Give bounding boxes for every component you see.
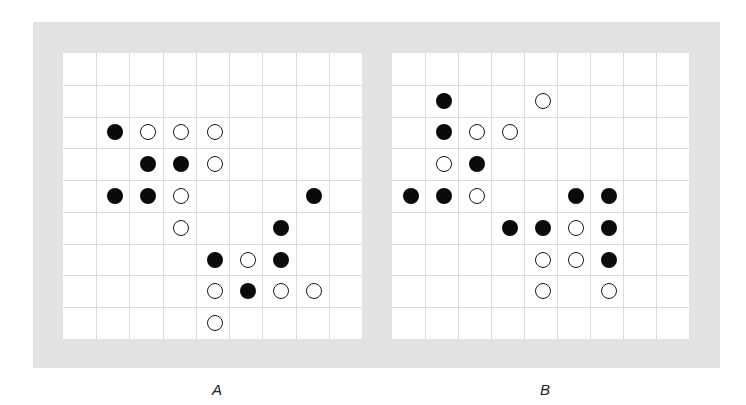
black-stone-icon	[240, 283, 256, 299]
black-stone-icon	[207, 252, 223, 268]
panel-label-a: A	[197, 381, 237, 398]
grid-line-horizontal	[392, 275, 689, 276]
grid-line-horizontal	[63, 85, 362, 86]
white-stone-icon	[568, 252, 584, 268]
grid-line-vertical	[425, 53, 426, 339]
grid-line-horizontal	[63, 307, 362, 308]
black-stone-icon	[436, 93, 452, 109]
panel-label-b: B	[525, 381, 565, 398]
grid-line-horizontal	[392, 212, 689, 213]
black-stone-icon	[173, 156, 189, 172]
white-stone-icon	[502, 124, 518, 140]
black-stone-icon	[502, 220, 518, 236]
grid-line-vertical	[96, 53, 97, 339]
white-stone-icon	[207, 283, 223, 299]
white-stone-icon	[436, 156, 452, 172]
black-stone-icon	[403, 188, 419, 204]
grid-line-vertical	[557, 53, 558, 339]
grid-line-horizontal	[392, 148, 689, 149]
grid-line-horizontal	[392, 307, 689, 308]
white-stone-icon	[306, 283, 322, 299]
grid-line-vertical	[458, 53, 459, 339]
black-stone-icon	[273, 220, 289, 236]
grid-line-vertical	[656, 53, 657, 339]
board-a	[63, 53, 362, 339]
grid-line-horizontal	[63, 275, 362, 276]
black-stone-icon	[469, 156, 485, 172]
white-stone-icon	[568, 220, 584, 236]
grid-line-vertical	[129, 53, 130, 339]
grid-line-horizontal	[63, 212, 362, 213]
white-stone-icon	[535, 252, 551, 268]
white-stone-icon	[207, 315, 223, 331]
white-stone-icon	[535, 283, 551, 299]
grid-line-vertical	[329, 53, 330, 339]
grid-line-horizontal	[63, 148, 362, 149]
white-stone-icon	[173, 220, 189, 236]
board-b	[392, 53, 689, 339]
grid-line-vertical	[524, 53, 525, 339]
grid-line-vertical	[623, 53, 624, 339]
grid-line-vertical	[296, 53, 297, 339]
grid-line-vertical	[262, 53, 263, 339]
black-stone-icon	[601, 252, 617, 268]
white-stone-icon	[140, 124, 156, 140]
white-stone-icon	[207, 156, 223, 172]
grid-line-horizontal	[392, 117, 689, 118]
grid-line-horizontal	[392, 180, 689, 181]
black-stone-icon	[601, 220, 617, 236]
black-stone-icon	[107, 188, 123, 204]
black-stone-icon	[140, 156, 156, 172]
white-stone-icon	[273, 283, 289, 299]
white-stone-icon	[469, 124, 485, 140]
black-stone-icon	[436, 188, 452, 204]
grid-line-vertical	[196, 53, 197, 339]
white-stone-icon	[469, 188, 485, 204]
black-stone-icon	[273, 252, 289, 268]
white-stone-icon	[240, 252, 256, 268]
white-stone-icon	[207, 124, 223, 140]
black-stone-icon	[535, 220, 551, 236]
grid-line-horizontal	[392, 85, 689, 86]
grid-line-horizontal	[63, 244, 362, 245]
black-stone-icon	[140, 188, 156, 204]
grid-line-horizontal	[392, 244, 689, 245]
black-stone-icon	[306, 188, 322, 204]
grid-line-vertical	[163, 53, 164, 339]
black-stone-icon	[601, 188, 617, 204]
black-stone-icon	[436, 124, 452, 140]
grid-line-vertical	[590, 53, 591, 339]
grid-line-vertical	[491, 53, 492, 339]
white-stone-icon	[173, 188, 189, 204]
grid-line-horizontal	[63, 180, 362, 181]
black-stone-icon	[107, 124, 123, 140]
black-stone-icon	[568, 188, 584, 204]
grid-line-vertical	[229, 53, 230, 339]
white-stone-icon	[173, 124, 189, 140]
grid-line-horizontal	[63, 117, 362, 118]
white-stone-icon	[601, 283, 617, 299]
white-stone-icon	[535, 93, 551, 109]
